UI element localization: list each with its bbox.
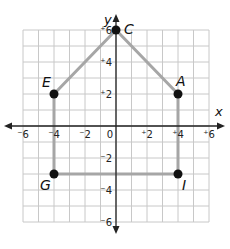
vertex-E-label: E [42,74,51,90]
coordinate-plane: xy ⁻6⁻4⁻20⁺2⁺4⁺6⁺6⁺4⁺2⁻2⁻4⁻6 CAIGE [0,0,230,249]
y-tick-label: ⁻2 [100,153,112,164]
x-tick-label: ⁺6 [203,129,215,140]
x-tick-label: ⁻4 [48,129,60,140]
y-tick-label: ⁻4 [100,185,112,196]
y-tick-label: ⁺6 [100,25,112,36]
vertex-C-label: C [124,21,134,37]
vertex-G-label: G [40,177,51,193]
vertex-I-label: I [182,177,186,193]
x-tick-label: 0 [107,129,113,140]
y-tick-label: ⁻6 [100,217,112,228]
vertex-C-dot [112,26,121,35]
x-tick-label: ⁺4 [172,129,184,140]
y-axis-down-arrow-icon [113,226,120,234]
polygon-vertices: CAIGE [40,21,186,193]
vertex-E-dot [50,90,59,99]
x-axis-label: x [214,104,223,119]
x-tick-label: ⁻2 [79,129,91,140]
x-axis-left-arrow-icon [4,123,12,130]
vertex-A-dot [174,90,183,99]
axes: xy [4,12,225,234]
y-tick-label: ⁺2 [100,89,112,100]
x-axis-right-arrow-icon [217,123,225,130]
y-axis-up-arrow-icon [113,14,120,22]
x-tick-label: ⁺2 [141,129,153,140]
y-tick-label: ⁺4 [100,57,112,68]
x-tick-label: ⁻6 [17,129,29,140]
vertex-A-label: A [175,73,186,89]
